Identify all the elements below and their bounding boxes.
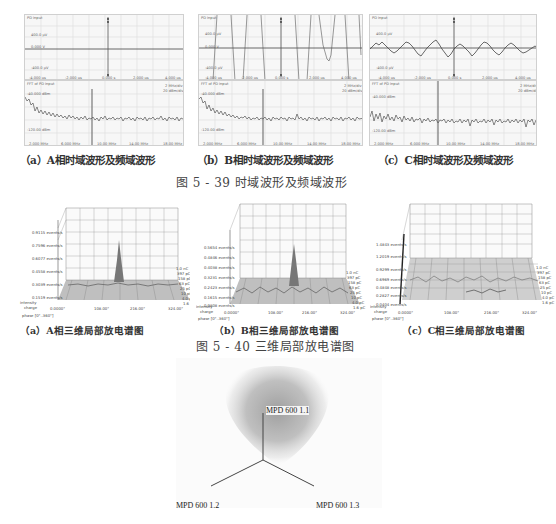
axis-label-phase-3: MPD 600 1.3 [316,501,359,510]
freq-title: FFT of PD input [201,82,228,86]
z-tick: 0.2827 events/s [376,293,407,298]
x-tick: 2.000 MHz [203,142,222,146]
freq-domain-plot-c: FFT of PD input 2 MHz/div 20 dBm/div -40… [369,80,537,146]
x-tick: 2.000 MHz [374,142,393,146]
z-tick: 0.3231 events/s [204,275,235,280]
y-tick: -120.00 dBm [27,128,50,132]
figure-caption-5-39: 图 5 - 39 时域波形及频域波形 [176,173,347,190]
axis-phase: phase [0°..360°] [372,316,404,321]
y-tick: -120.00 dBm [372,129,395,133]
fig-5-39-panel-b: PD input 400.0 µV 0.000 V -400.0 µV -4.0… [198,14,363,146]
freq-title: FFT of PD input [27,82,54,86]
z-tick: 0.4558 events/s [32,269,63,274]
z-tick: 0.9299 events/s [376,267,407,272]
time-title: PD input [201,16,216,20]
phase-tick: 108.00° [444,310,459,315]
three-phase-star-diagram: MPD 600 1.1 MPD 600 1.2 MPD 600 1.3 [176,358,382,508]
y-tick: 0.000 V [31,45,45,49]
z-tick: 0.1615 events/s [204,295,235,300]
freq-scale: 2 MHz/div [520,84,537,88]
y-tick: -400.0 µV [205,66,222,70]
phase-tick: 216.00° [484,310,499,315]
y-tick: -400.0 µV [376,66,393,70]
subcaption-5-40-b: （b）B相三维局部放电谱图 [214,323,339,337]
x-tick: 10.00 MHz [273,142,292,146]
time-domain-grid-b [199,15,363,80]
subcaption-5-39-b: （b）B相时域波形及频域波形 [197,152,333,167]
z-tick: 0.5654 events/s [204,245,235,250]
y-tick: 400.0 µV [376,32,392,36]
axis-phase: phase [0°..360°] [22,313,54,318]
figure-caption-5-40: 图 5 - 40 三维局部放电谱图 [196,337,355,354]
axis-label-phase-2: MPD 600 1.2 [176,501,219,510]
axis-charge: charge [24,305,37,310]
phase-tick: 0.0000° [224,310,239,315]
pd-3d-plot-b: 0.5654 events/s 0.4846 events/s 0.4038 e… [196,200,368,322]
phase-tick: 0.0000° [398,310,413,315]
subcaption-5-40-c: （c）C相三维局部放电谱图 [402,323,525,337]
time-title: PD input [27,16,42,20]
axis-charge: charge [200,309,213,314]
z-tick: 0.4038 events/s [204,265,235,270]
z-tick: 0.6969 events/s [376,277,407,282]
freq-domain-plot-b: FFT of PD input 2 MHz/div 20 dBm/div -40… [198,80,363,146]
y-tick: -40.000 dBm [27,92,50,96]
pd-3d-plot-c: 1.4843 events/s 1.2019 events/s 0.9299 e… [370,200,556,322]
z-tick: 0.4846 events/s [204,255,235,260]
x-tick: 14.00 MHz [480,142,499,146]
x-tick: 6.000 MHz [237,142,256,146]
axis-label-phase-1: MPD 600 1.1 [266,406,309,415]
x-tick: 6.000 MHz [61,142,80,146]
y-tick: -40.000 dBm [372,95,395,99]
time-domain-grid-c [370,15,537,80]
time-domain-plot-a: PD input 400.0 µV 0.000 V -400.0 µV -4.0… [24,14,184,80]
z-tick: 0.4848 events/s [376,285,407,290]
phase-tick: 216.00° [130,306,145,311]
freq-domain-grid-b [199,81,363,146]
x-tick: 14.00 MHz [129,142,148,146]
z-tick: 0.6077 events/s [32,256,63,261]
subcaption-5-40-a: （a）A相三维局部放电谱图 [20,323,144,337]
freq-domain-grid-c [370,81,537,146]
z-tick: 0.7596 events/s [32,243,63,248]
x-tick: 10.00 MHz [446,142,465,146]
fig-5-39-panel-c: PD input 400.0 µV -400.0 µV -4.000 µs -2… [369,14,537,146]
fig-5-39-panel-a: PD input 400.0 µV 0.000 V -400.0 µV -4.0… [24,14,184,146]
z-tick: 1.2019 events/s [376,254,407,259]
freq-scale: 20 dBm/div [342,89,363,93]
phase-tick: 108.00° [268,310,283,315]
x-tick: 2.000 MHz [29,142,48,146]
subcaption-5-39-a: （a）A相时域波形及频域波形 [20,152,155,167]
x-tick: 18.00 MHz [341,142,360,146]
x-tick: 18.00 MHz [515,142,534,146]
freq-title: FFT of PD input [372,82,399,86]
subcaption-5-39-c: （c）C相时域波形及频域波形 [378,152,513,167]
axis-charge: charge [374,309,387,314]
z-tick: 0.9115 events/s [32,230,63,235]
z-tick: 1.4843 events/s [376,242,407,247]
time-title: PD input [372,16,387,20]
y-tick: 400.0 µV [205,32,221,36]
y-tick: -120.00 dBm [201,128,224,132]
time-domain-grid-a [25,15,184,80]
time-domain-plot-b: PD input 400.0 µV 0.000 V -400.0 µV -4.0… [198,14,363,80]
phase-tick: 324.00° [522,310,537,315]
freq-scale: 20 dBm/div [518,89,537,93]
z-tick: 0.2423 events/s [204,285,235,290]
x-tick: 14.00 MHz [307,142,326,146]
freq-domain-plot-a: FFT of PD input 2 MHz/div 20 dBm/div -40… [24,80,184,146]
y-tick: -400.0 µV [31,66,48,70]
x-tick: 6.000 MHz [410,142,429,146]
charge-tick: 1.6 pC [542,300,554,305]
freq-scale: 20 dBm/div [163,89,184,93]
phase-tick: 0.0000° [50,306,65,311]
axis-phase: phase [0°..360°] [198,316,230,321]
y-tick: 0.000 V [205,45,219,49]
charge-tick: 1.6 pC [183,301,190,306]
freq-scale: 2 MHz/div [165,84,183,88]
phase-tick: 324.00° [340,310,355,315]
freq-scale: 2 MHz/div [344,84,362,88]
phase-tick: 216.00° [302,310,317,315]
x-tick: 18.00 MHz [163,142,182,146]
y-tick: -40.000 dBm [201,92,224,96]
